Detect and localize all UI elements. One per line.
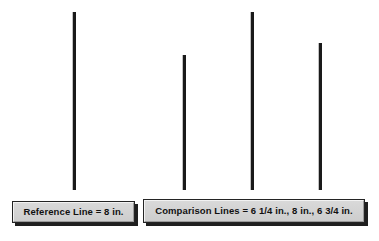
reference-line — [73, 12, 76, 190]
comparison-line-2 — [251, 12, 254, 190]
reference-caption-label: Reference Line = 8 in. — [23, 207, 123, 217]
reference-caption-box: Reference Line = 8 in. — [12, 201, 135, 223]
reference-caption-bevel: Reference Line = 8 in. — [13, 202, 134, 222]
comparison-line-3 — [319, 43, 322, 190]
comparison-caption-box: Comparison Lines = 6 1/4 in., 8 in., 6 3… — [143, 199, 365, 223]
line-comparison-figure: Reference Line = 8 in. Comparison Lines … — [0, 0, 379, 241]
comparison-caption-bevel: Comparison Lines = 6 1/4 in., 8 in., 6 3… — [144, 200, 364, 222]
comparison-caption-label: Comparison Lines = 6 1/4 in., 8 in., 6 3… — [155, 206, 353, 216]
comparison-line-1 — [183, 55, 186, 190]
